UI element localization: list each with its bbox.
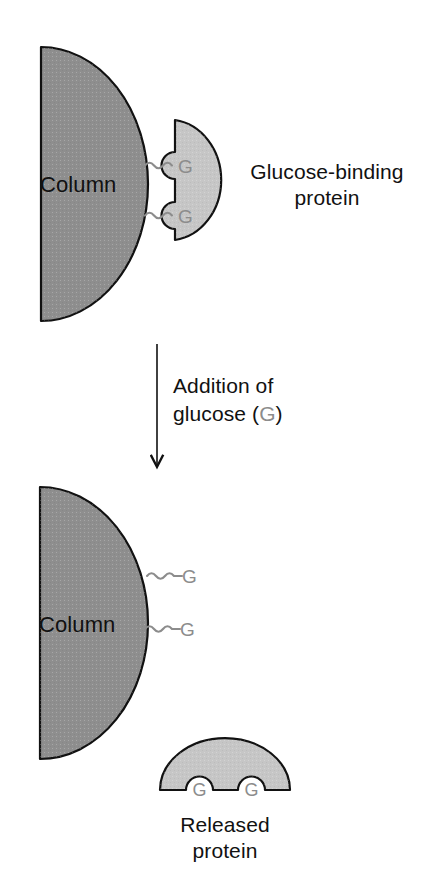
transition-glucose-symbol: G <box>259 402 275 425</box>
glucose-symbol-site-1: G <box>178 156 193 177</box>
transition-group: Addition of glucose (G) <box>157 344 283 466</box>
transition-text-line2: glucose (G) <box>173 402 283 425</box>
free-linker-2: G <box>145 619 195 640</box>
transition-text-line1: Addition of <box>173 374 273 397</box>
bottom-panel: Column G G G G Released protein <box>39 487 290 862</box>
column-label-bottom: Column <box>39 612 115 637</box>
released-protein-caption-line2: protein <box>193 839 258 862</box>
protein-caption-line1: Glucose-binding <box>250 160 403 183</box>
protein-caption-line2: protein <box>295 186 360 209</box>
top-panel: Column G G Glucose-binding protein <box>40 47 404 321</box>
transition-text-prefix: glucose ( <box>173 402 259 425</box>
transition-text-suffix: ) <box>276 402 283 425</box>
affinity-chromatography-diagram: Column G G Glucose-binding protein <box>0 0 427 883</box>
glucose-symbol-free-2: G <box>180 619 195 640</box>
diagram-canvas: Column G G Glucose-binding protein <box>0 0 427 883</box>
glucose-symbol-site-2: G <box>178 206 193 227</box>
glucose-symbol-released-2: G <box>244 780 258 800</box>
glucose-symbol-free-1: G <box>182 566 197 587</box>
released-protein-caption-line1: Released <box>180 813 270 836</box>
column-label-top: Column <box>40 172 116 197</box>
free-linker-1: G <box>147 566 197 587</box>
released-protein-shape <box>160 738 290 790</box>
glucose-symbol-released-1: G <box>192 780 206 800</box>
